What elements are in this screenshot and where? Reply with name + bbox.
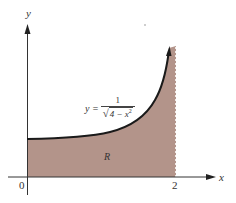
artifact-dot: [144, 24, 145, 25]
equation-denominator: √ 4 − x2: [103, 107, 133, 120]
x-axis-arrow-icon: [206, 174, 216, 180]
equation-radicand: 4 − x2: [109, 107, 133, 120]
equation-radicand-text: 4 − x: [110, 109, 129, 119]
x-axis-label: x: [219, 172, 224, 183]
curve-equation: y = 1 √ 4 − x2: [85, 96, 135, 120]
region-label: R: [104, 152, 110, 162]
equation-fraction: 1 √ 4 − x2: [101, 96, 135, 120]
equation-lhs: y =: [85, 103, 99, 114]
equation-numerator: 1: [101, 96, 135, 107]
origin-label: 0: [19, 180, 25, 191]
equation-exponent: 2: [129, 108, 132, 114]
y-axis-arrow-icon: [25, 24, 31, 34]
x-tick-label-2: 2: [172, 180, 178, 191]
y-axis-label: y: [26, 8, 31, 19]
